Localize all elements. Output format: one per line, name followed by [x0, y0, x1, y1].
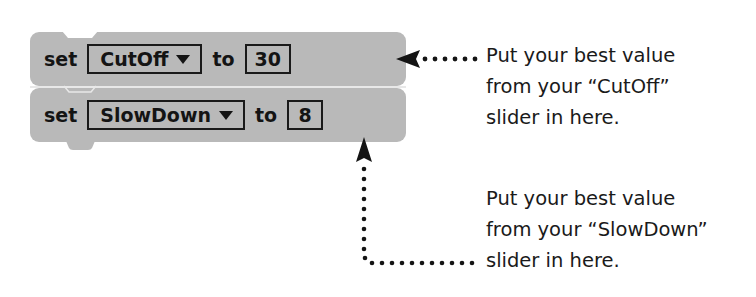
- arrow-left-icon: [396, 50, 477, 68]
- annotation-cutoff: Put your best value from your “CutOff” s…: [486, 40, 675, 133]
- annotation-line: slider in here.: [486, 245, 708, 276]
- annotation-slowdown: Put your best value from your “SlowDown”…: [486, 183, 708, 276]
- annotation-line: Put your best value: [486, 183, 708, 214]
- annotation-line: Put your best value: [486, 40, 675, 71]
- annotation-line: from your “CutOff”: [486, 71, 675, 102]
- annotation-line: slider in here.: [486, 102, 675, 133]
- annotation-line: from your “SlowDown”: [486, 214, 708, 245]
- arrow-up-icon: [356, 137, 474, 265]
